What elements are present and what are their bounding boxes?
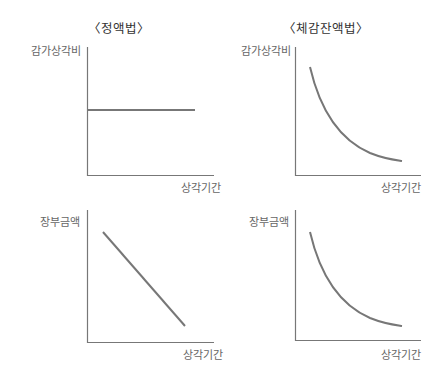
chart-straight-line-book-value: 장부금액 상각기간 [40, 210, 223, 362]
title-declining-balance: 〈체감잔액법〉 [283, 21, 369, 36]
axes [88, 210, 215, 343]
xlabel-period: 상각기간 [183, 349, 223, 362]
xlabel-period: 상각기간 [181, 182, 221, 195]
declining-curve [310, 67, 402, 161]
axes [296, 210, 422, 341]
ylabel-book-value: 장부금액 [40, 216, 80, 229]
chart-straight-line-depreciation: 감가상각비 상각기간 [31, 45, 221, 195]
linear-decreasing-line [103, 232, 185, 326]
chart-declining-depreciation: 감가상각비 상각기간 [241, 45, 421, 195]
ylabel-book-value: 장부금액 [249, 216, 289, 229]
chart-declining-book-value: 장부금액 상각기간 [249, 210, 421, 362]
axes [296, 47, 422, 176]
xlabel-period: 상각기간 [381, 349, 421, 362]
declining-curve [310, 232, 402, 326]
axes [88, 47, 215, 176]
title-straight-line: 〈정액법〉 [88, 21, 150, 36]
ylabel-depreciation-expense: 감가상각비 [241, 45, 291, 58]
ylabel-depreciation-expense: 감가상각비 [31, 45, 81, 58]
depreciation-diagram: 〈정액법〉 〈체감잔액법〉 감가상각비 상각기간 감가상각비 상각기간 장부금액… [0, 0, 446, 372]
xlabel-period: 상각기간 [381, 182, 421, 195]
